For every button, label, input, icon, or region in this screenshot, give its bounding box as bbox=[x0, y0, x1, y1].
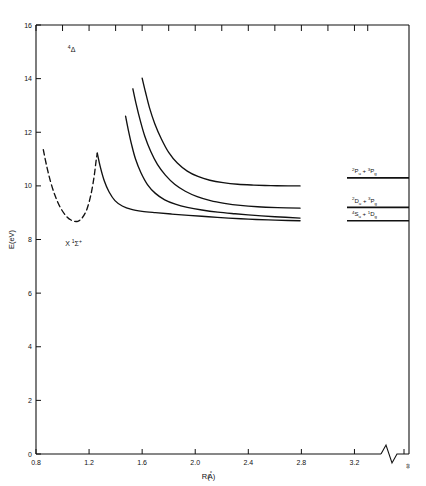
curve-C bbox=[133, 89, 300, 208]
x-tick-label: 1.6 bbox=[137, 459, 147, 466]
ground-state: X 1Σ+ bbox=[65, 238, 82, 247]
potential-energy-curve-figure: 02468101214160.81.21.62.02.42.83.2∞R(°A)… bbox=[0, 0, 426, 486]
curve-A-lowest bbox=[97, 153, 300, 221]
y-tick-label: 8 bbox=[28, 236, 32, 243]
y-tick-label: 0 bbox=[28, 451, 32, 458]
svg-text:2Pu + 3Pg: 2Pu + 3Pg bbox=[352, 167, 377, 176]
y-tick-label: 12 bbox=[24, 129, 32, 136]
y-axis-title: E(eV) bbox=[7, 229, 16, 249]
x-tick-label: 0.8 bbox=[31, 459, 41, 466]
x-tick-label: 1.2 bbox=[84, 459, 94, 466]
curve-B bbox=[126, 116, 300, 218]
svg-text:4Su + 1Dg: 4Su + 1Dg bbox=[352, 210, 378, 219]
x-tick-label: 2.8 bbox=[297, 459, 307, 466]
level-2Pu-3Pg-label: 2Pu + 3Pg bbox=[352, 167, 377, 176]
y-tick-label: 10 bbox=[24, 182, 32, 189]
y-tick-label: 14 bbox=[24, 75, 32, 82]
svg-text:2Du + 3Pg: 2Du + 3Pg bbox=[352, 196, 378, 205]
ground-state-dashed-curve bbox=[43, 150, 97, 222]
level-2Du-3Pg-label: 2Du + 3Pg bbox=[352, 196, 378, 205]
x-axis-break-symbol bbox=[381, 445, 409, 463]
quartet-delta-state: 4Δ bbox=[68, 44, 76, 53]
y-tick-label: 6 bbox=[28, 290, 32, 297]
x-tick-label-infinity: ∞ bbox=[404, 464, 411, 469]
x-tick-label: 2.0 bbox=[190, 459, 200, 466]
x-tick-label: 3.2 bbox=[350, 459, 360, 466]
svg-text:R(°A): R(°A) bbox=[202, 470, 216, 481]
x-tick-label: 2.4 bbox=[243, 459, 253, 466]
y-tick-label: 2 bbox=[28, 397, 32, 404]
svg-text:X 1Σ+: X 1Σ+ bbox=[65, 238, 82, 247]
svg-text:4Δ: 4Δ bbox=[68, 44, 76, 53]
level-4Su-1Dg-label: 4Su + 1Dg bbox=[352, 210, 378, 219]
curve-D-highest bbox=[142, 78, 300, 186]
y-tick-label: 4 bbox=[28, 343, 32, 350]
y-tick-label: 16 bbox=[24, 22, 32, 29]
x-axis-title: R(°A) bbox=[202, 470, 216, 481]
